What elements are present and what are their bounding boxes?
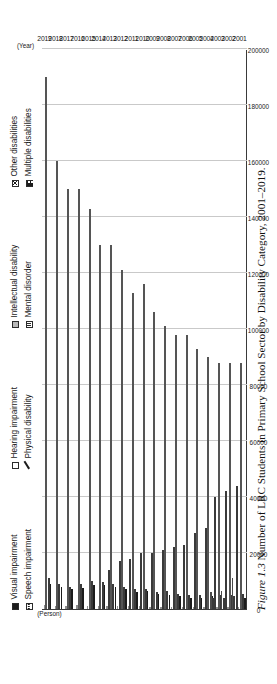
- crosshatch-square-icon: [12, 180, 19, 187]
- bar: [104, 585, 105, 609]
- figure-1-3: Visual impairmentHearing impairmentIntel…: [0, 0, 277, 684]
- empty-square-icon: [12, 462, 19, 469]
- bar: [164, 326, 166, 609]
- bar: [115, 587, 116, 609]
- legend-item-hearing: Hearing impairment: [8, 332, 22, 469]
- bar-group-2013: [171, 49, 181, 609]
- bar-group-2011: [149, 49, 159, 609]
- bar: [71, 589, 72, 609]
- bar: [196, 349, 198, 609]
- bar-group-2010: [139, 49, 149, 609]
- bar: [201, 598, 202, 609]
- grey-square-icon: [12, 321, 19, 328]
- bar: [158, 594, 159, 609]
- legend-item-label: Visual impairment: [8, 535, 22, 600]
- bar: [50, 584, 51, 609]
- bar-group-2009: [128, 49, 138, 609]
- bar: [169, 595, 170, 609]
- bar-group-2006: [98, 49, 106, 609]
- bar-group-2014: [182, 49, 192, 609]
- multi-square-icon: [26, 180, 33, 187]
- bar-group-2004: [76, 49, 84, 609]
- dash-line-icon: [26, 603, 33, 610]
- legend-item-label: Other disabilities: [8, 116, 22, 177]
- legend-item-speech: Speech impairment: [22, 473, 36, 610]
- bar-group-2012: [160, 49, 170, 609]
- figure-caption-text: Number of LRC Students in Primary School…: [255, 167, 267, 560]
- bar: [225, 491, 227, 609]
- bar: [236, 486, 238, 609]
- bar: [125, 589, 126, 609]
- bar: [93, 585, 94, 609]
- bar: [121, 270, 123, 609]
- y-axis-unit-label: (Person): [37, 610, 62, 617]
- bar: [179, 596, 180, 609]
- legend-item-multiple: Multiple disabilities: [22, 50, 36, 187]
- bar: [56, 161, 58, 609]
- bar: [82, 588, 83, 609]
- legend-item-label: Mental disorder: [22, 261, 36, 317]
- x-axis-unit-label: (Year): [17, 42, 34, 49]
- bar: [240, 363, 242, 609]
- bar-group-2008: [117, 49, 127, 609]
- bar: [175, 335, 177, 609]
- bar: [45, 77, 47, 609]
- bar: [61, 587, 62, 609]
- dotted-square-icon: [26, 321, 33, 328]
- bar: [147, 591, 148, 609]
- bar: [136, 592, 137, 609]
- bar: [78, 189, 80, 609]
- figure-caption: Figure 1.3 Number of LRC Students in Pri…: [255, 20, 277, 610]
- chart-legend: Visual impairmentHearing impairmentIntel…: [8, 50, 38, 610]
- bar: [67, 189, 69, 609]
- bar: [190, 598, 191, 609]
- solid-square-icon: [12, 603, 19, 610]
- bar-group-2007: [106, 49, 116, 609]
- bar: [229, 363, 231, 609]
- legend-item-label: Intellectual disability: [8, 245, 22, 318]
- bar: [218, 363, 220, 609]
- legend-item-label: Hearing impairment: [8, 387, 22, 458]
- legend-item-label: Physical disability: [22, 394, 36, 458]
- bar: [207, 357, 209, 609]
- bar: [186, 335, 188, 609]
- legend-item-other: Other disabilities: [8, 50, 22, 187]
- bar-group-2001: [44, 49, 52, 609]
- bar-group-2005: [87, 49, 95, 609]
- legend-item-physical: Physical disability: [22, 332, 36, 469]
- bar: [89, 209, 91, 609]
- legend-item-intellectual: Intellectual disability: [8, 191, 22, 328]
- x-tick-label: 2019: [35, 35, 55, 42]
- legend-item-mental: Mental disorder: [22, 191, 36, 328]
- rotated-figure-wrapper: Visual impairmentHearing impairmentIntel…: [0, 0, 277, 684]
- legend-item-label: Multiple disabilities: [22, 108, 36, 176]
- bar: [132, 293, 134, 609]
- bar-group-2015: [193, 49, 203, 609]
- figure-number: Figure 1.3: [255, 563, 267, 610]
- bar-group-2003: [65, 49, 73, 609]
- plot-area: [42, 50, 247, 610]
- bar: [99, 245, 101, 609]
- bar: [153, 312, 155, 609]
- legend-item-label: Speech impairment: [22, 529, 36, 600]
- slash-icon: [26, 462, 33, 469]
- bar-group-2002: [55, 49, 63, 609]
- bar: [110, 245, 112, 609]
- bar: [143, 284, 145, 609]
- legend-item-visual: Visual impairment: [8, 473, 22, 610]
- bar: [214, 497, 216, 609]
